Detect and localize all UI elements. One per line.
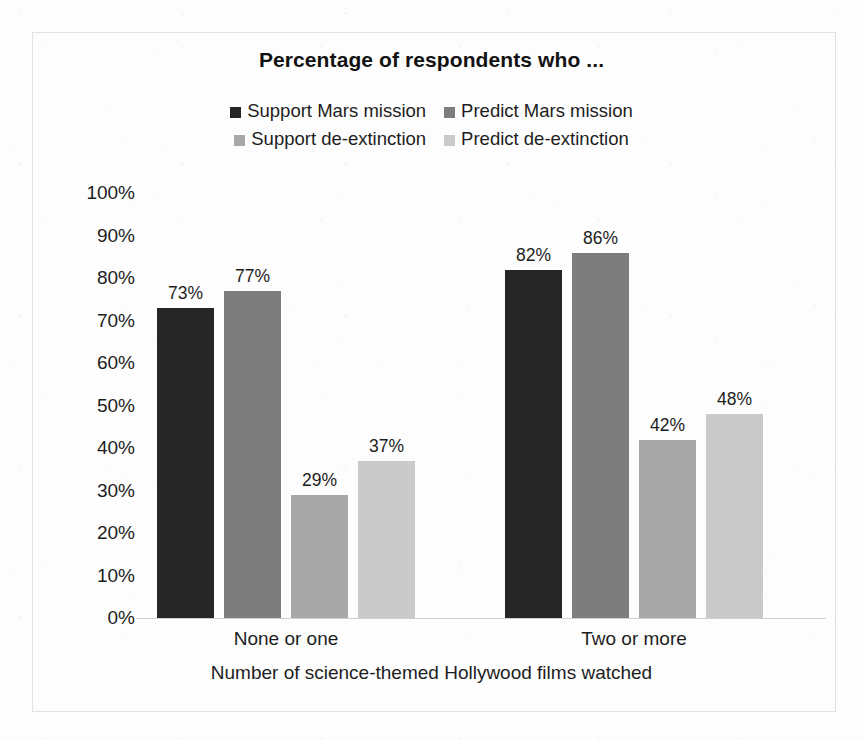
legend-label: Predict Mars mission <box>461 100 633 122</box>
legend-item-predict-de-extinction[interactable]: Predict de-extinction <box>444 128 629 150</box>
legend-item-support-mars-mission[interactable]: Support Mars mission <box>230 100 426 122</box>
legend-item-predict-mars-mission[interactable]: Predict Mars mission <box>444 100 633 122</box>
legend-label: Predict de-extinction <box>461 128 629 150</box>
legend-swatch-icon <box>230 107 241 118</box>
legend-swatch-icon <box>444 107 455 118</box>
legend-swatch-icon <box>444 135 455 146</box>
x-axis-title: Number of science-themed Hollywood films… <box>0 662 863 684</box>
legend-label: Support Mars mission <box>247 100 426 122</box>
legend-item-support-de-extinction[interactable]: Support de-extinction <box>234 128 426 150</box>
legend-row-1: Support Mars mission Predict Mars missio… <box>230 100 633 122</box>
legend-swatch-icon <box>234 135 245 146</box>
legend-label: Support de-extinction <box>251 128 426 150</box>
chart-legend: Support Mars mission Predict Mars missio… <box>0 100 863 150</box>
legend-row-2: Support de-extinction Predict de-extinct… <box>234 128 628 150</box>
chart-title: Percentage of respondents who ... <box>0 48 863 72</box>
